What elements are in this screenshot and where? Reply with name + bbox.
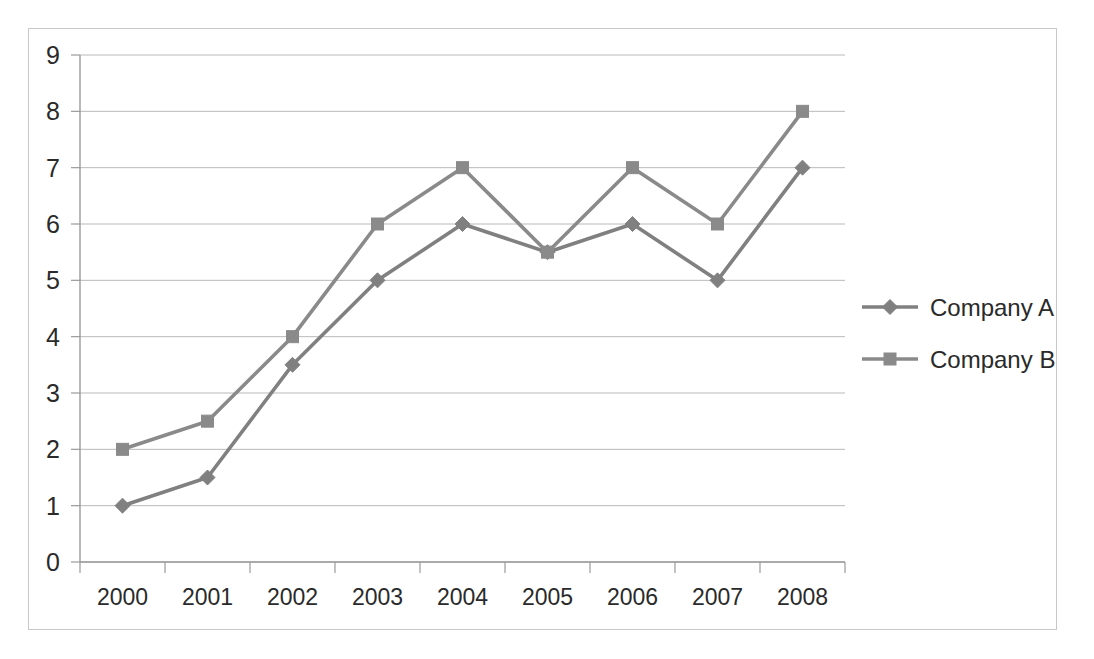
legend-group: Company ACompany B (862, 294, 1055, 373)
line-chart-plot: 0123456789 20002001200220032004200520062… (0, 0, 1094, 659)
data-point-marker-square (457, 162, 469, 174)
gridlines-group (80, 55, 845, 562)
x-axis-tick-label: 2008 (777, 584, 828, 610)
data-point-marker-square (542, 246, 554, 258)
x-axis-tick-labels-group: 200020012002200320042005200620072008 (97, 584, 828, 610)
x-axis-tick-label: 2004 (437, 584, 488, 610)
x-axis-tick-label: 2001 (182, 584, 233, 610)
data-point-marker-square (797, 105, 809, 117)
y-axis-tick-label: 2 (46, 435, 60, 463)
legend-label[interactable]: Company B (930, 346, 1055, 373)
y-axis-tick-label: 5 (46, 266, 60, 294)
y-axis-tick-labels-group: 0123456789 (46, 41, 80, 576)
y-axis-tick-label: 4 (46, 323, 60, 351)
y-axis-tick-label: 0 (46, 548, 60, 576)
legend-label[interactable]: Company A (930, 294, 1054, 321)
data-point-marker-square (117, 443, 129, 455)
y-axis-tick-label: 1 (46, 492, 60, 520)
chart-container: 0123456789 20002001200220032004200520062… (0, 0, 1094, 659)
x-axis-tick-label: 2007 (692, 584, 743, 610)
data-point-marker-square (287, 331, 299, 343)
y-axis-tick-label: 7 (46, 154, 60, 182)
y-axis-tick-label: 8 (46, 97, 60, 125)
x-axis-tick-label: 2005 (522, 584, 573, 610)
x-axis-tick-label: 2002 (267, 584, 318, 610)
data-point-marker-square (884, 353, 896, 365)
x-axis-tick-label: 2000 (97, 584, 148, 610)
data-point-marker-square (712, 218, 724, 230)
y-axis-tick-label: 6 (46, 210, 60, 238)
x-axis-ticks-group (80, 562, 845, 573)
x-axis-tick-label: 2006 (607, 584, 658, 610)
data-point-marker-diamond (883, 300, 898, 315)
data-point-marker-square (627, 162, 639, 174)
data-point-marker-square (372, 218, 384, 230)
data-point-marker-diamond (115, 498, 130, 513)
x-axis-tick-label: 2003 (352, 584, 403, 610)
y-axis-tick-label: 9 (46, 41, 60, 69)
y-axis-tick-label: 3 (46, 379, 60, 407)
data-point-marker-square (202, 415, 214, 427)
